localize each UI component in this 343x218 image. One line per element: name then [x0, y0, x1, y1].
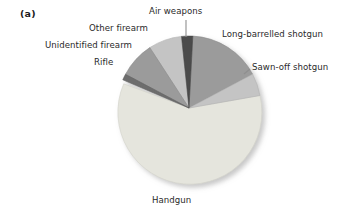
pie-label-sawn-off-shotgun: Sawn-off shotgun — [252, 63, 328, 72]
pie-label-rifle: Rifle — [94, 58, 113, 67]
pie-label-long-barrelled-shotgun: Long-barrelled shotgun — [222, 30, 323, 39]
pie-label-air-weapons: Air weapons — [149, 7, 202, 16]
pie-slices-group — [118, 36, 262, 184]
figure-panel: (a) Air weapons — [0, 0, 343, 218]
pie-label-unidentified-firearm: Unidentified firearm — [45, 41, 132, 50]
pie-label-other-firearm: Other firearm — [89, 24, 148, 33]
pie-label-handgun: Handgun — [152, 196, 191, 205]
